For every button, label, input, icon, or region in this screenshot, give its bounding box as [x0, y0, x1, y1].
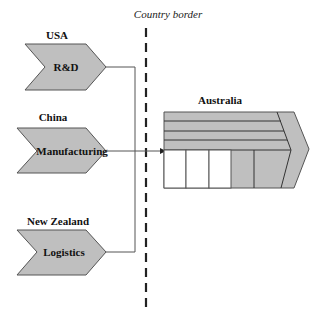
country-label-australia: Australia: [198, 94, 243, 106]
primary-activity-cell: [186, 150, 209, 188]
connector-rnd-logistics: [106, 67, 135, 252]
country-label-china: China: [39, 111, 68, 123]
country-label-new-zealand: New Zealand: [27, 215, 89, 227]
primary-activity-cell: [209, 150, 231, 188]
activity-label-rnd: R&D: [53, 61, 78, 73]
primary-activity-cell: [164, 150, 186, 188]
activity-label-logistics: Logistics: [43, 246, 85, 258]
country-label-usa: USA: [46, 29, 68, 41]
value-chain-diagram: Country border USA R&D China Manufacturi…: [0, 0, 322, 323]
activity-label-manufacturing: Manufacturing: [36, 145, 108, 157]
border-caption: Country border: [134, 8, 203, 20]
